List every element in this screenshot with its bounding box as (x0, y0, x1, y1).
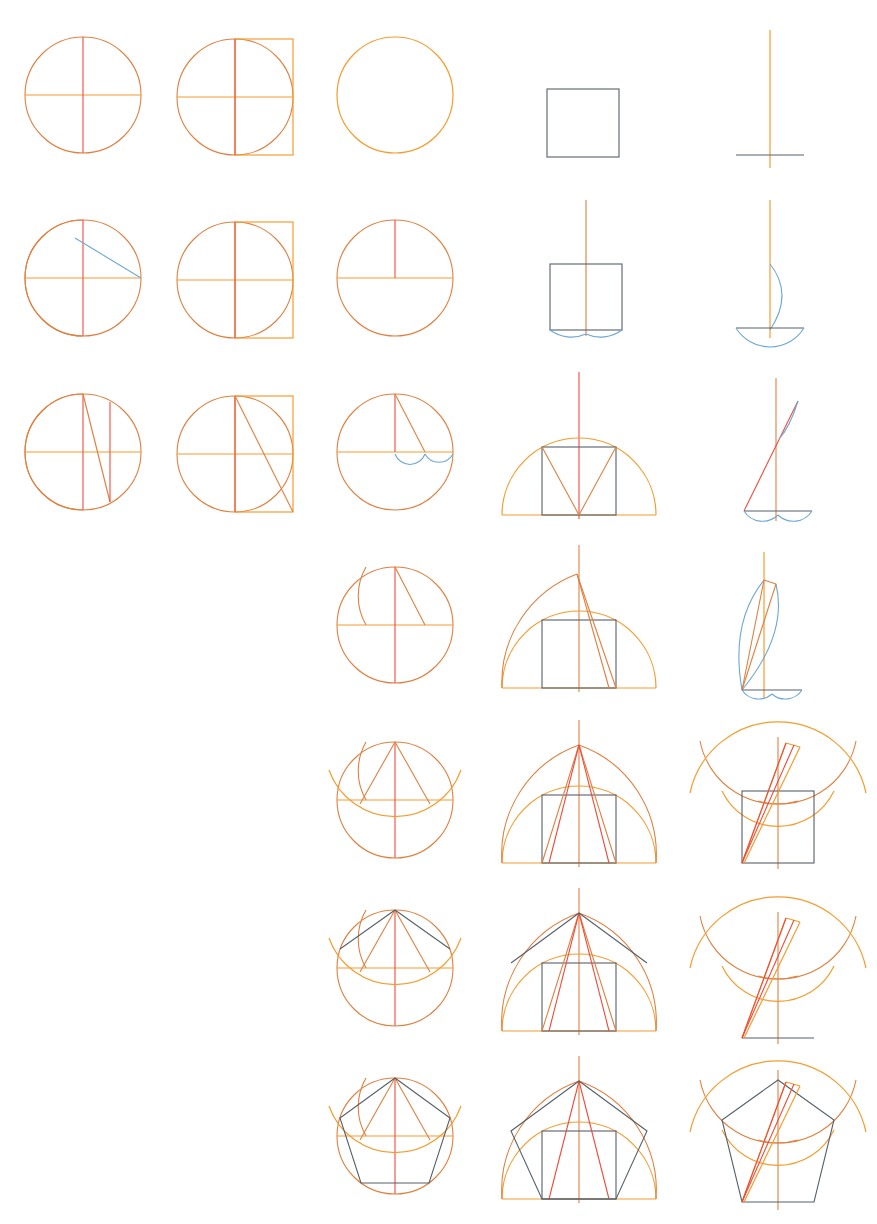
square-outline (547, 89, 619, 157)
blue-arc-left (744, 511, 778, 521)
figure-plain-square (546, 88, 620, 158)
vee-left (542, 447, 579, 515)
figure-circle-chord-arcs (337, 394, 453, 510)
figure-arcs-pentagon (688, 1070, 868, 1216)
blue-arc-right (425, 454, 453, 462)
red-chord-a (742, 743, 786, 863)
figure-circle-half-axis (337, 220, 453, 336)
chord-right (395, 1078, 430, 1140)
figure-circle-arc-chord-2 (337, 567, 453, 683)
chord-left-inner (549, 1081, 579, 1199)
base-circle (337, 37, 453, 153)
blue-base-arc-left (742, 690, 772, 699)
chord-left-inner (549, 913, 579, 1031)
chord-right (395, 910, 430, 972)
figure-semicircle-polygon-start (494, 888, 674, 1038)
figure-arcs-crossing (688, 737, 868, 877)
figure-arcs-polygon-start (688, 912, 868, 1052)
chord-right-inner (579, 1081, 609, 1199)
chord-right (395, 567, 425, 625)
construction-sheet (0, 0, 877, 1224)
figure-circle-arcs-verticals (25, 394, 141, 510)
chord-left-inner (549, 745, 579, 863)
figure-semicircle-two-chords (494, 720, 674, 870)
polygon-edge-right (579, 913, 647, 963)
figure-semicircle-arc-chord (494, 545, 674, 695)
chord-right-inner (579, 745, 609, 863)
chord-left (360, 1078, 395, 1140)
blue-arc-right (770, 264, 782, 330)
figure-square-axis-arcs (546, 200, 626, 340)
blue-base-arc-right (772, 690, 802, 699)
figure-circle-with-axes (25, 37, 141, 153)
blue-arc-left (395, 454, 425, 464)
red-chord-a (742, 918, 786, 1038)
polygon-edge-left (511, 913, 579, 963)
chord-right (395, 742, 430, 804)
chord-to-diameter (395, 394, 425, 452)
outer-arc-right (579, 745, 656, 863)
figure-axis-oblique-arcs (730, 378, 840, 523)
chord-b (742, 584, 776, 690)
sliver-edge-right (744, 1086, 800, 1202)
blue-chord (75, 238, 141, 278)
figure-axis-cross (730, 30, 810, 170)
chord-left (542, 913, 579, 1031)
figure-circle-pentagon (325, 1078, 465, 1208)
blue-arc-right (586, 330, 622, 337)
vee-right (579, 447, 616, 515)
chord-right-inner (579, 913, 609, 1031)
red-chord-a (742, 1082, 786, 1202)
figure-circle-with-square (177, 37, 307, 159)
sliver-edge-right (744, 747, 800, 863)
chord-right (579, 913, 616, 1031)
outer-arc-right (579, 913, 656, 1031)
figure-lens-arcs (724, 552, 834, 702)
large-outer-arc (502, 574, 577, 688)
chord-to-base (577, 574, 616, 688)
outer-arc-left (502, 745, 579, 863)
figure-circle-arc-chord (25, 220, 141, 336)
polygon-edge-left (340, 910, 395, 949)
polygon-edge-right (395, 910, 450, 949)
chord-inner (577, 574, 609, 688)
chord-left (542, 745, 579, 863)
figure-axis-arc-lens (730, 200, 810, 340)
figure-plain-circle (337, 37, 453, 153)
figure-circle-square-diagonal (177, 394, 307, 516)
chord-top (764, 580, 776, 584)
outer-arc-right (579, 1081, 656, 1199)
figure-circle-polygon-start (325, 910, 465, 1030)
blue-arc-left (550, 330, 586, 337)
blue-arc-right (778, 511, 812, 521)
chord-right (579, 745, 616, 863)
oblique-line (744, 401, 798, 511)
chord-left (360, 742, 395, 804)
oblique-chord (83, 394, 110, 502)
outer-arc-left (502, 913, 579, 1031)
figure-circle-two-chords (325, 742, 465, 862)
outer-arc-left (502, 1081, 579, 1199)
sliver-edge-right (744, 922, 800, 1038)
figure-semicircle-pentagon (494, 1056, 674, 1206)
figure-semicircle-square-vee (494, 372, 664, 522)
figure-circle-square-axes (177, 220, 307, 342)
chord-left (360, 910, 395, 972)
